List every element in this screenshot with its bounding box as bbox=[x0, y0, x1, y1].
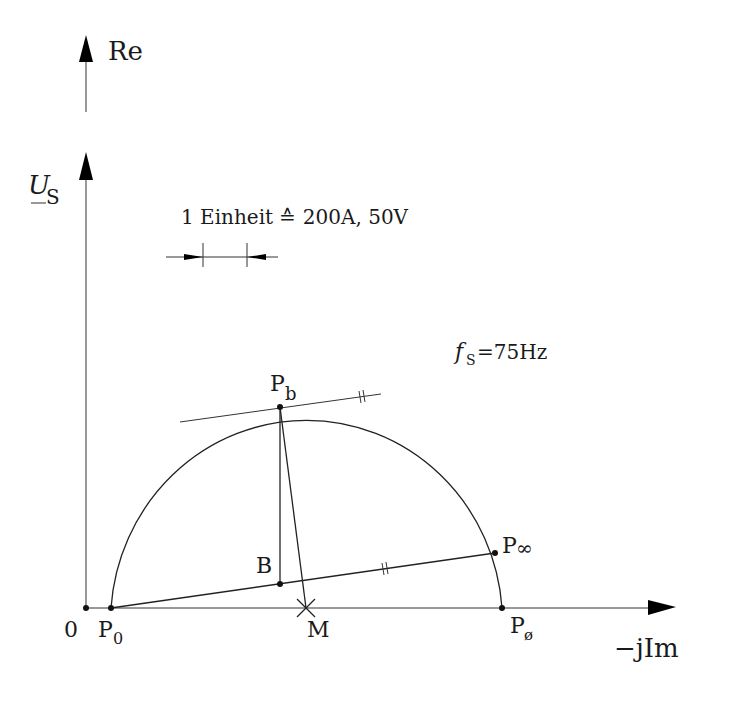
pb-label: P bbox=[270, 371, 285, 396]
pb-subscript: b bbox=[285, 383, 297, 404]
re-axis-arrow bbox=[79, 35, 93, 112]
scale-dimension-marker bbox=[166, 243, 278, 267]
p0-label: P bbox=[98, 617, 113, 642]
re-axis-label: Re bbox=[108, 36, 143, 66]
point-pinf bbox=[492, 550, 498, 556]
frequency-value: =75Hz bbox=[477, 340, 547, 364]
b-label: B bbox=[256, 553, 272, 578]
origin-label: 0 bbox=[64, 617, 78, 642]
frequency-subscript: S bbox=[466, 352, 476, 368]
frequency-symbol: f bbox=[453, 339, 467, 364]
point-pphi bbox=[499, 605, 505, 611]
center-m-label: M bbox=[307, 617, 330, 642]
pb-m-radius bbox=[280, 407, 306, 608]
circle-diagram: Re U S −jIm 0 1 Einheit ≙ 200A, 50V f S … bbox=[0, 0, 729, 703]
voltage-axis-label: U S bbox=[28, 170, 60, 209]
origin-point bbox=[83, 605, 89, 611]
voltage-subscript: S bbox=[46, 185, 60, 209]
point-b bbox=[277, 581, 283, 587]
p0-subscript: 0 bbox=[113, 629, 123, 648]
pphi-subscript: ø bbox=[524, 626, 533, 644]
frequency-label: f S =75Hz bbox=[453, 339, 547, 368]
point-pb bbox=[277, 404, 283, 410]
pinf-subscript: ∞ bbox=[516, 536, 533, 560]
pinf-label: P bbox=[502, 533, 517, 558]
pphi-label: P bbox=[510, 613, 525, 638]
scale-label: 1 Einheit ≙ 200A, 50V bbox=[181, 205, 409, 229]
imag-axis bbox=[86, 600, 676, 615]
point-p0 bbox=[108, 605, 114, 611]
voltage-axis bbox=[79, 152, 93, 608]
imag-axis-label: −jIm bbox=[614, 633, 679, 663]
